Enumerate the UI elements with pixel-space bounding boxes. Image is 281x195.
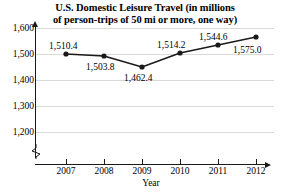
data-point-2010 (177, 50, 182, 55)
data-label-2009: 1,462.4 (124, 73, 153, 83)
data-point-2011 (215, 42, 220, 47)
data-point-2008 (101, 53, 106, 58)
data-label-2008: 1,503.8 (86, 62, 115, 72)
data-point-2012 (253, 34, 258, 39)
data-label-2012: 1,575.0 (233, 45, 262, 55)
data-label-2011: 1,544.6 (199, 32, 228, 42)
data-label-2010: 1,514.2 (157, 40, 186, 50)
data-label-2007: 1,510.4 (49, 41, 78, 51)
data-point-2009 (139, 64, 144, 69)
chart-container: U.S. Domestic Leisure Travel (in million… (0, 0, 281, 195)
data-point-2007 (63, 51, 68, 56)
data-series (0, 0, 281, 195)
